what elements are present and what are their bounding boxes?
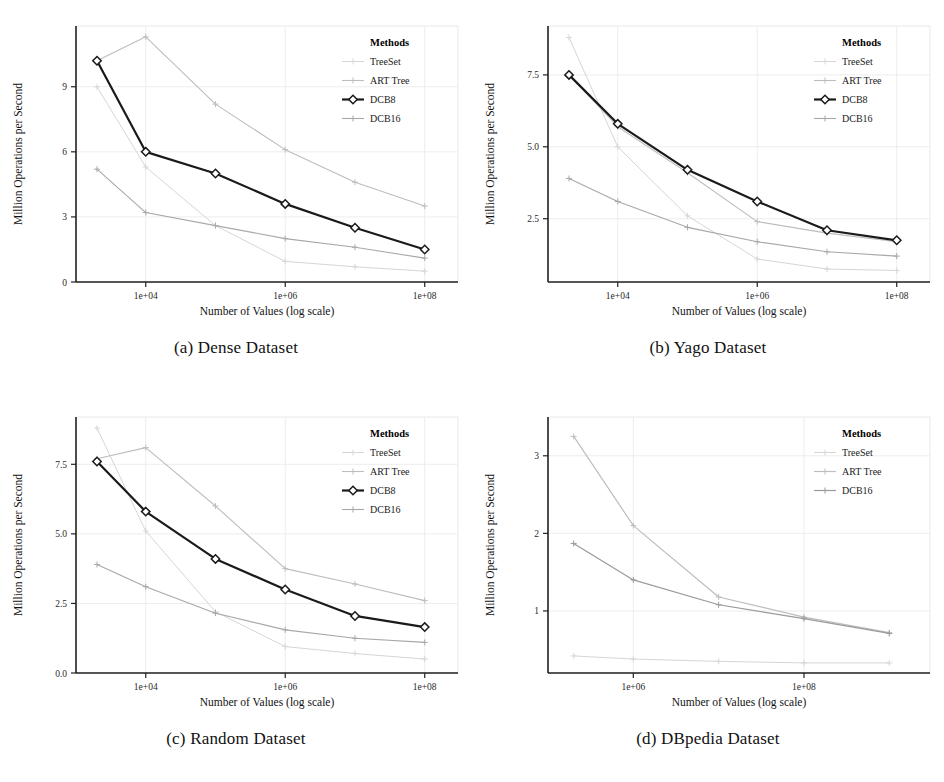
- x-axis-tick-label: 1e+06: [745, 291, 769, 301]
- panel-d-caption: (d) DBpedia Dataset: [472, 729, 944, 749]
- panel-c-svg: 0.02.55.07.51e+041e+061e+08Number of Val…: [0, 391, 472, 736]
- x-axis-tick-label: 1e+08: [885, 291, 909, 301]
- y-axis-tick-label: 0.0: [55, 669, 67, 679]
- y-axis-tick-label: 7.5: [55, 460, 67, 470]
- y-axis-tick-label: 1: [534, 606, 539, 616]
- x-axis-tick-label: 1e+08: [413, 291, 437, 301]
- panel-a-svg: 03691e+041e+061e+08Number of Values (log…: [0, 0, 472, 345]
- y-axis-title: Million Operations per Second: [484, 474, 497, 616]
- figure-four-panel-benchmark: 03691e+041e+061e+08Number of Values (log…: [0, 0, 944, 782]
- y-axis-title: Million Operations per Second: [12, 474, 25, 616]
- panel-b-plot: 2.55.07.51e+041e+061e+08Number of Values…: [472, 0, 944, 345]
- panel-d: 1231e+061e+08Number of Values (log scale…: [472, 391, 944, 782]
- legend-item-label: TreeSet: [370, 56, 401, 67]
- panel-a-plot: 03691e+041e+061e+08Number of Values (log…: [0, 0, 472, 345]
- legend-item-label: DCB8: [370, 94, 396, 105]
- x-axis-tick-label: 1e+08: [792, 682, 816, 692]
- legend-item-label: TreeSet: [842, 56, 873, 67]
- panel-d-svg: 1231e+061e+08Number of Values (log scale…: [472, 391, 944, 736]
- panel-d-plot: 1231e+061e+08Number of Values (log scale…: [472, 391, 944, 736]
- y-axis-tick-label: 6: [62, 147, 67, 157]
- y-axis-tick-label: 3: [62, 212, 67, 222]
- x-axis-tick-label: 1e+06: [621, 682, 645, 692]
- y-axis-tick-label: 5.0: [527, 142, 539, 152]
- panel-c-caption: (c) Random Dataset: [0, 729, 472, 749]
- panel-b-svg: 2.55.07.51e+041e+061e+08Number of Values…: [472, 0, 944, 345]
- legend-item-label: ART Tree: [370, 466, 410, 477]
- x-axis-tick-label: 1e+04: [606, 291, 630, 301]
- legend-title: Methods: [842, 37, 881, 48]
- legend-item-label: DCB8: [842, 94, 868, 105]
- legend-item-label: DCB16: [842, 113, 873, 124]
- panel-b-caption: (b) Yago Dataset: [472, 338, 944, 358]
- panel-a-caption: (a) Dense Dataset: [0, 338, 472, 358]
- y-axis-title: Million Operations per Second: [12, 83, 25, 225]
- y-axis-tick-label: 2: [534, 529, 539, 539]
- panel-grid: 03691e+041e+061e+08Number of Values (log…: [0, 0, 944, 782]
- panel-c-plot: 0.02.55.07.51e+041e+061e+08Number of Val…: [0, 391, 472, 736]
- legend-title: Methods: [370, 428, 409, 439]
- legend-item-label: ART Tree: [842, 466, 882, 477]
- legend-item-label: DCB16: [370, 113, 401, 124]
- panel-a: 03691e+041e+061e+08Number of Values (log…: [0, 0, 472, 391]
- panel-b: 2.55.07.51e+041e+061e+08Number of Values…: [472, 0, 944, 391]
- legend-item-label: TreeSet: [842, 447, 873, 458]
- x-axis-title: Number of Values (log scale): [672, 696, 807, 709]
- y-axis-tick-label: 0: [62, 278, 67, 288]
- x-axis-tick-label: 1e+08: [413, 682, 437, 692]
- legend-item-label: ART Tree: [842, 75, 882, 86]
- panel-c: 0.02.55.07.51e+041e+061e+08Number of Val…: [0, 391, 472, 782]
- legend-item-label: DCB16: [370, 504, 401, 515]
- x-axis-tick-label: 1e+04: [134, 291, 158, 301]
- legend-item-label: ART Tree: [370, 75, 410, 86]
- y-axis-tick-label: 5.0: [55, 529, 67, 539]
- x-axis-title: Number of Values (log scale): [200, 696, 335, 709]
- legend-title: Methods: [842, 428, 881, 439]
- x-axis-title: Number of Values (log scale): [200, 305, 335, 318]
- y-axis-tick-label: 2.5: [55, 599, 67, 609]
- x-axis-tick-label: 1e+04: [134, 682, 158, 692]
- x-axis-tick-label: 1e+06: [273, 682, 297, 692]
- y-axis-tick-label: 3: [534, 451, 539, 461]
- legend-item-label: TreeSet: [370, 447, 401, 458]
- y-axis-tick-label: 2.5: [527, 214, 539, 224]
- y-axis-tick-label: 9: [62, 82, 67, 92]
- y-axis-tick-label: 7.5: [527, 70, 539, 80]
- y-axis-title: Million Operations per Second: [484, 83, 497, 225]
- x-axis-tick-label: 1e+06: [273, 291, 297, 301]
- legend-title: Methods: [370, 37, 409, 48]
- legend-item-label: DCB8: [370, 485, 396, 496]
- x-axis-title: Number of Values (log scale): [672, 305, 807, 318]
- legend-item-label: DCB16: [842, 485, 873, 496]
